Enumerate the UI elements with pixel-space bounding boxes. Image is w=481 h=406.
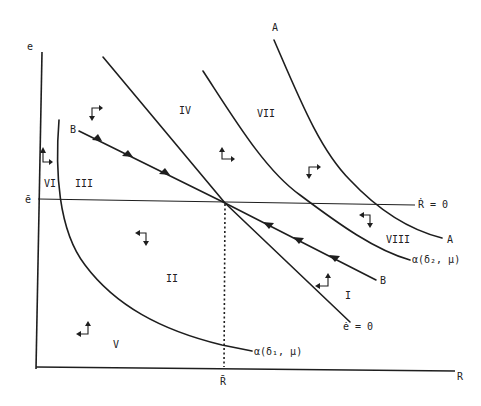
region-vi-label: VI [44,178,56,189]
e-dot-zero-label: ė = 0 [343,321,373,332]
direction-arrow-viii-icon [359,212,373,228]
curve-a [274,40,442,238]
curve-a-top-label: A [272,22,278,33]
e-dot-zero-line [103,57,350,322]
direction-arrow-iii-icon [89,105,103,121]
direction-arrow-vi-icon [40,147,53,165]
curve-a-end-label: A [447,234,453,245]
r-axis-label: R [457,371,464,382]
r-bar-label: R̄ [220,375,227,387]
saddle-path-b-end-label: B [380,275,386,286]
alpha-delta1-label: α(δ₁, μ) [254,346,302,357]
e-bar-label: ē [25,194,31,205]
region-iii-label: III [75,178,93,189]
phase-diagram: e R ē Ṙ = 0 R̄ ė = 0 B B α(δ₁, μ) α(δ₂, … [0,0,481,406]
alpha-delta2-curve [203,71,410,260]
region-iv-label: IV [179,105,191,116]
saddle-path-b-start-label: B [70,124,76,135]
region-v-label: V [113,339,119,350]
region-viii-label: VIII [386,234,410,245]
alpha-delta1-curve [58,120,252,351]
direction-arrow-vii-icon [306,164,321,179]
direction-arrow-ii-icon [135,230,149,246]
alpha-delta2-label: α(δ₂, μ) [412,254,460,265]
region-i-label: I [345,290,351,301]
region-ii-label: II [166,273,178,284]
direction-arrow-i-icon [315,273,331,289]
direction-arrow-v-icon [76,321,91,337]
direction-arrow-iv-icon [219,147,235,162]
region-vii-label: VII [257,108,275,119]
r-bar-dotted-line [224,204,225,367]
e-axis-label: e [27,41,33,52]
r-dot-zero-label: Ṙ = 0 [418,198,448,210]
r-axis [36,367,455,371]
e-axis [36,52,42,369]
